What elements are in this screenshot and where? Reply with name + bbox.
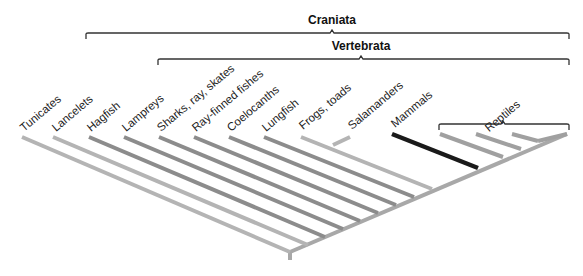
bracket-vertebrata	[158, 56, 569, 65]
branch-reptile-3	[512, 134, 538, 141]
branch-reptile-1	[440, 134, 503, 157]
branch-hagfish	[89, 137, 325, 237]
label-reptiles: Reptiles	[483, 98, 523, 134]
clade-craniata: Craniata	[86, 13, 569, 39]
branch-frogs-toads	[301, 137, 432, 189]
taxon-labels: TunicatesLanceletsHagfishLampreysSharks,…	[18, 62, 523, 134]
bracket-craniata	[86, 30, 569, 39]
clade-label-vertebrata: Vertebrata	[332, 39, 391, 53]
branch-coelocanths	[229, 137, 396, 205]
clade-label-craniata: Craniata	[308, 13, 356, 27]
clade-vertebrata: Vertebrata	[158, 39, 569, 65]
branch-ray-finned-fishes	[194, 137, 378, 213]
cladogram: CraniataVertebrata TunicatesLanceletsHag…	[0, 0, 583, 276]
branch-mammals	[392, 134, 478, 168]
label-frogs-toads: Frogs, toads	[297, 81, 354, 131]
branches	[22, 134, 567, 260]
branch-salamanders	[333, 137, 350, 145]
branch-tunicates	[22, 137, 290, 252]
branch-lungfish	[264, 137, 414, 197]
